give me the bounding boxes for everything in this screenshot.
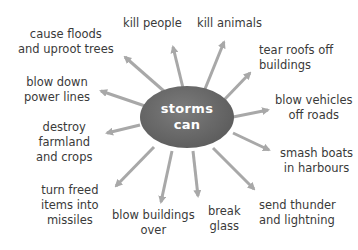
storms-mind-map: storms can cause floods and uproot trees… — [0, 0, 358, 250]
arrow-tear-roofs — [224, 73, 250, 100]
branch-glass: break glass — [208, 204, 241, 234]
branch-kill-people: kill people — [123, 16, 182, 31]
branch-cause-floods: cause floods and uproot trees — [18, 27, 114, 57]
arrow-kill-animals — [205, 42, 224, 89]
arrow-vehicles — [233, 110, 268, 117]
arrow-missiles — [116, 147, 154, 186]
branch-power-lines: blow down power lines — [24, 75, 90, 105]
branch-farmland: destroy farmland and crops — [36, 120, 92, 165]
arrow-glass — [193, 151, 198, 196]
branch-thunder: send thunder and lightning — [259, 198, 336, 228]
branch-kill-animals: kill animals — [197, 16, 262, 31]
arrow-thunder — [213, 148, 254, 189]
arrow-power-lines — [101, 91, 145, 106]
arrow-buildings-over — [161, 151, 172, 202]
branch-boats: smash boats in harbours — [280, 146, 353, 176]
arrow-boats — [233, 133, 269, 150]
center-node: storms can — [140, 86, 234, 148]
branch-buildings-over: blow buildings over — [112, 208, 195, 238]
branch-missiles: turn freed items into missiles — [41, 183, 99, 228]
arrow-cause-floods — [125, 57, 165, 92]
branch-vehicles: blow vehicles off roads — [275, 93, 353, 123]
center-line2: can — [174, 117, 201, 133]
arrow-kill-people — [173, 47, 183, 88]
branch-tear-roofs: tear roofs off buildings — [259, 43, 333, 73]
arrow-farmland — [107, 125, 140, 133]
center-line1: storms — [161, 101, 213, 117]
